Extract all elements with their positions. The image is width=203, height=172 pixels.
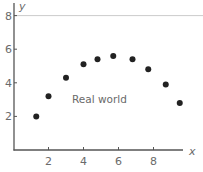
axis-ticks: 24682468 (5, 10, 157, 168)
data-point (110, 53, 116, 59)
data-point (63, 75, 69, 81)
y-tick-label: 6 (5, 43, 12, 56)
scatter-chart: 24682468 x y Real world (0, 0, 203, 172)
data-point (130, 56, 136, 62)
real-world-annotation: Real world (72, 93, 127, 105)
data-points (33, 53, 183, 119)
data-point (46, 93, 52, 99)
data-point (81, 61, 87, 67)
y-axis-label: y (18, 0, 26, 13)
y-tick-label: 8 (5, 10, 12, 23)
y-tick-label: 4 (5, 77, 12, 90)
x-tick-label: 8 (150, 155, 157, 168)
data-point (95, 56, 101, 62)
x-axis-label: x (188, 145, 196, 158)
x-tick-label: 2 (45, 155, 52, 168)
x-tick-label: 6 (115, 155, 122, 168)
data-point (163, 81, 169, 87)
y-tick-label: 2 (5, 110, 12, 123)
data-point (177, 100, 183, 106)
data-point (33, 113, 39, 119)
data-point (145, 66, 151, 72)
axes (14, 3, 184, 151)
x-tick-label: 4 (80, 155, 87, 168)
